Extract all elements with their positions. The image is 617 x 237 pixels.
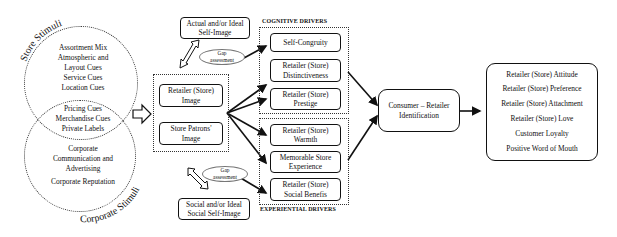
gap-assessment-top: Gapassessment: [199, 49, 245, 65]
warmth-box: Retailer (Store)Warmth: [270, 124, 341, 146]
outcome-love: Retailer (Store) Love: [511, 112, 574, 127]
social-self-image-box: Social and/or IdealSocial Self-Image: [178, 198, 250, 220]
store-stimuli-list: Assortment Mix Atmospheric and Layout Cu…: [38, 43, 128, 93]
corporate-stimuli-list: Corporate Communication and Advertising …: [36, 144, 130, 187]
social-benefits-box: Retailer (Store)Social Benefis: [270, 178, 341, 201]
retailer-image-box: Retailer (Store)Image: [159, 84, 223, 107]
store-patrons-image-box: Store Patrons'Image: [159, 122, 223, 145]
experiential-drivers-header: EXPERIENTIAL DRIVERS: [260, 206, 336, 212]
distinctiveness-box: Retailer (Store)Distinctiveness: [270, 59, 341, 82]
shared-stimuli-list: Pricing Cues Merchandise Cues Private La…: [38, 104, 128, 134]
gap-assessment-bottom: Gapassessment: [202, 166, 248, 182]
self-congruity-box: Self-Congruity: [270, 33, 341, 52]
prestige-box: Retailer (Store)Prestige: [270, 88, 341, 110]
memorable-experience-box: Memorable StoreExperience: [270, 151, 341, 173]
outcome-word-of-mouth: Positive Word of Mouth: [506, 142, 577, 157]
outcome-loyalty: Customer Loyalty: [515, 127, 569, 142]
identification-box: Consumer – RetailerIdentification: [378, 89, 460, 132]
outcome-preference: Retailer (Store) Preference: [502, 82, 581, 97]
outcomes-box: Retailer (Store) Attitude Retailer (Stor…: [486, 63, 598, 161]
cognitive-drivers-header: COGNITIVE DRIVERS: [262, 18, 327, 24]
svg-text:Corporate Stimuli: Corporate Stimuli: [80, 185, 142, 225]
actual-self-image-box: Actual and/or IdealSelf-Image: [180, 17, 250, 39]
outcome-attitude: Retailer (Store) Attitude: [506, 68, 577, 83]
self-image-double-arrow-top: [180, 40, 199, 68]
outcome-attachment: Retailer (Store) Attachment: [501, 97, 583, 112]
corporate-stimuli-title: Corporate Stimuli: [80, 185, 142, 225]
